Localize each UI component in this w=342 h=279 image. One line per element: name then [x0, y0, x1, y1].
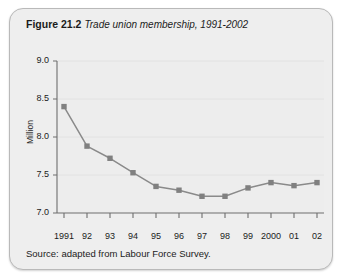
x-axis-tick-labels: 1991929394959697989920000102: [10, 231, 333, 247]
data-point-97: [199, 194, 204, 199]
data-point-2000: [268, 180, 273, 185]
data-point-96: [176, 188, 181, 193]
x-tick-99: 99: [243, 231, 253, 241]
data-point-95: [153, 184, 158, 189]
x-tick-98: 98: [220, 231, 230, 241]
x-tick-01: 01: [289, 231, 299, 241]
x-tick-92: 92: [82, 231, 92, 241]
data-point-02: [314, 180, 319, 185]
x-tick-96: 96: [174, 231, 184, 241]
data-point-99: [245, 185, 250, 190]
x-tick-1991: 1991: [54, 231, 74, 241]
x-tick-93: 93: [105, 231, 115, 241]
chart-plot-area: Million 7.07.58.08.59.0 1991929394959697…: [10, 9, 333, 270]
data-point-94: [130, 170, 135, 175]
data-point-92: [84, 143, 89, 148]
x-tick-97: 97: [197, 231, 207, 241]
data-point-1991: [61, 104, 66, 109]
figure-source: Source: adapted from Labour Force Survey…: [26, 248, 211, 259]
x-tick-94: 94: [128, 231, 138, 241]
x-tick-02: 02: [312, 231, 322, 241]
data-point-93: [107, 156, 112, 161]
data-point-98: [222, 194, 227, 199]
data-point-01: [291, 183, 296, 188]
x-tick-95: 95: [151, 231, 161, 241]
x-tick-2000: 2000: [261, 231, 281, 241]
figure-card: Figure 21.2 Trade union membership, 1991…: [9, 8, 333, 270]
